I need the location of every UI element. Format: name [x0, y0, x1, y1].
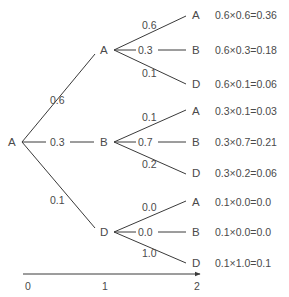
leaf-db: B: [192, 226, 200, 238]
edge-prob-root-b: 0.3: [50, 136, 65, 148]
probability-tree-diagram: A 0.6 0.3 0.1 A B D 0.6 0.3 0.1 0.1 0.7 …: [0, 0, 289, 297]
axis-tick-0: 0: [25, 280, 31, 292]
edge-root-to-d: [22, 142, 95, 228]
leaf-ab: B: [192, 44, 200, 56]
edge-prob-ab: 0.3: [138, 44, 153, 56]
result-bb: 0.3×0.7=0.21: [215, 136, 277, 148]
edge-prob-db: 0.0: [138, 226, 153, 238]
edge-prob-aa: 0.6: [142, 19, 157, 31]
level1-node-b: B: [100, 136, 108, 148]
edge-prob-bd: 0.2: [142, 158, 157, 170]
result-aa: 0.6×0.6=0.36: [215, 9, 277, 21]
level1-node-d: D: [100, 226, 108, 238]
edge-prob-ad: 0.1: [142, 67, 157, 79]
result-db: 0.1×0.0=0.0: [215, 226, 271, 238]
result-ab: 0.6×0.3=0.18: [215, 44, 277, 56]
edge-prob-da: 0.0: [142, 201, 157, 213]
leaf-aa: A: [192, 9, 200, 21]
root-node-label: A: [8, 136, 16, 148]
leaf-bd: D: [192, 167, 200, 179]
result-da: 0.1×0.0=0.0: [215, 196, 271, 208]
edge-prob-root-d: 0.1: [50, 194, 65, 206]
leaf-ba: A: [192, 105, 200, 117]
edge-prob-ba: 0.1: [142, 111, 157, 123]
edge-prob-root-a: 0.6: [50, 94, 65, 106]
axis-tick-1: 1: [102, 280, 108, 292]
leaf-dd: D: [192, 257, 200, 269]
edge-prob-bb: 0.7: [138, 136, 153, 148]
result-ad: 0.6×0.1=0.06: [215, 78, 277, 90]
result-ba: 0.3×0.1=0.03: [215, 105, 277, 117]
leaf-da: A: [192, 196, 200, 208]
result-bd: 0.3×0.2=0.06: [215, 167, 277, 179]
leaf-ad: D: [192, 78, 200, 90]
level1-node-a: A: [100, 44, 108, 56]
edge-prob-dd: 1.0: [142, 247, 157, 259]
result-dd: 0.1×1.0=0.1: [215, 257, 271, 269]
axis-tick-2: 2: [194, 280, 200, 292]
leaf-bb: B: [192, 136, 200, 148]
